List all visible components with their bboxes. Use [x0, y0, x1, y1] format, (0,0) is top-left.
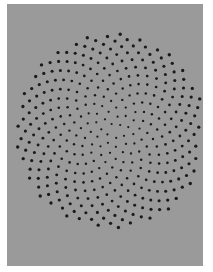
dot [59, 133, 62, 136]
dot [117, 205, 120, 208]
dot [156, 48, 159, 51]
dot [66, 139, 68, 141]
dot [193, 133, 196, 136]
dot [80, 127, 82, 129]
dot [103, 96, 105, 98]
dot [55, 126, 58, 129]
dot [124, 209, 127, 212]
dot [49, 109, 52, 112]
dot [178, 103, 181, 106]
dot [115, 158, 117, 160]
dot [190, 96, 193, 99]
dot [34, 106, 37, 109]
dot [146, 145, 148, 147]
dot [192, 169, 195, 172]
dot [68, 129, 70, 131]
dot [91, 48, 94, 51]
dot [164, 171, 167, 174]
dot [89, 68, 92, 71]
dot [30, 159, 33, 162]
dot [138, 38, 141, 41]
dot [19, 137, 22, 140]
dot [144, 66, 147, 69]
dot [91, 143, 93, 145]
dot [44, 122, 47, 125]
dot [76, 163, 78, 165]
dot [23, 92, 26, 95]
dot [69, 114, 71, 116]
dot [187, 139, 190, 142]
dot [28, 141, 31, 144]
dot [140, 138, 142, 140]
dot [164, 81, 167, 84]
dot [182, 78, 185, 81]
dot [108, 74, 111, 77]
dot [16, 145, 19, 148]
dot [76, 107, 78, 109]
dot [152, 138, 154, 140]
dot [87, 197, 90, 200]
dot [24, 149, 27, 152]
dot [156, 145, 159, 148]
dot [96, 211, 99, 214]
dot [113, 214, 116, 217]
dot [184, 129, 187, 132]
dot [30, 87, 33, 90]
dot [42, 152, 45, 155]
dot [57, 97, 60, 100]
dot [56, 51, 59, 54]
dot [94, 94, 96, 96]
dot [63, 123, 66, 126]
dot [161, 135, 164, 138]
dot [133, 183, 136, 186]
dot [81, 145, 83, 147]
dot [169, 180, 172, 183]
dot [140, 186, 143, 189]
dot [64, 186, 67, 189]
dot [66, 106, 69, 109]
dot [37, 177, 40, 180]
dot [107, 88, 109, 90]
dot [37, 144, 40, 147]
dot [84, 211, 87, 214]
dot [168, 104, 171, 107]
dot [130, 152, 132, 154]
dot [78, 217, 81, 220]
dot [78, 82, 81, 85]
dot [126, 200, 129, 203]
dot [40, 63, 43, 66]
dot [140, 159, 142, 161]
dot [149, 208, 152, 211]
dot [141, 101, 143, 103]
dot [158, 117, 161, 120]
dot [75, 71, 78, 74]
dot [65, 51, 68, 54]
dot [105, 57, 108, 60]
dot [57, 165, 60, 168]
dot [164, 190, 167, 193]
dot [35, 117, 38, 120]
dot [155, 77, 158, 80]
dot [102, 217, 105, 220]
dot [122, 151, 124, 153]
dot [59, 69, 62, 72]
dot [131, 58, 134, 61]
dot [171, 96, 174, 99]
dot [104, 118, 106, 120]
dot [180, 166, 183, 169]
dot [22, 157, 25, 160]
dot [91, 171, 93, 173]
dot [69, 202, 72, 205]
dot [53, 152, 56, 155]
dot [106, 133, 108, 135]
dot [102, 79, 105, 82]
dot [101, 105, 103, 107]
dot [191, 87, 194, 90]
dot [151, 113, 153, 115]
dot [46, 184, 49, 187]
dot [175, 197, 178, 200]
dot [46, 80, 49, 83]
dot [33, 151, 36, 154]
phyllotaxis-dot-pattern [0, 0, 213, 272]
dot [90, 218, 93, 221]
